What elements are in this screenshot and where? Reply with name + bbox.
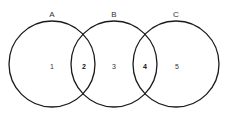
region-label-1: 1: [50, 63, 54, 70]
set-label-b: B: [111, 10, 116, 19]
region-label-5: 5: [175, 63, 179, 70]
region-label-2: 2: [82, 63, 86, 70]
venn-diagram: A B C 1 2 3 4 5: [0, 0, 229, 118]
set-label-c: C: [173, 10, 179, 19]
set-label-a: A: [49, 10, 55, 19]
region-label-3: 3: [112, 63, 116, 70]
region-label-4: 4: [143, 63, 147, 70]
